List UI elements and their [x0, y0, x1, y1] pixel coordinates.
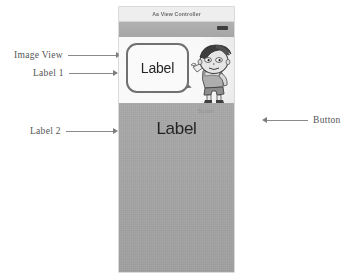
nav-bar-button[interactable] [217, 26, 228, 30]
annotation-label2-label: Label 2 [30, 126, 61, 136]
annotation-button-line [267, 120, 308, 121]
image-view[interactable]: Label [119, 37, 234, 103]
button-control[interactable]: Button [198, 109, 214, 114]
annotation-label2-line [66, 131, 113, 132]
arrow-right-icon [113, 70, 118, 76]
annotation-button: Button [262, 115, 341, 125]
annotation-image-view-line [68, 55, 116, 56]
annotation-label1-label: Label 1 [33, 68, 64, 78]
view-body: Button Label [119, 103, 234, 272]
nav-bar-strip [119, 22, 234, 37]
navigation-bar: Aa View Controller [119, 7, 234, 22]
speech-bubble: Label [126, 43, 189, 93]
view-controller-title: Aa View Controller [152, 11, 201, 17]
ios-simulator-screenshot: Aa View Controller Label [119, 7, 234, 272]
label2-text: Label [119, 119, 234, 139]
label1-text: Label [141, 60, 174, 76]
arrow-right-icon [113, 128, 118, 134]
annotation-label1: Label 1 [33, 68, 118, 78]
annotation-label2: Label 2 [30, 126, 118, 136]
annotation-image-view: Image View [14, 50, 121, 60]
annotation-label1-line [69, 73, 113, 74]
annotation-button-label: Button [313, 115, 341, 125]
cartoon-boy-icon [189, 41, 233, 103]
annotation-image-view-label: Image View [14, 50, 63, 60]
